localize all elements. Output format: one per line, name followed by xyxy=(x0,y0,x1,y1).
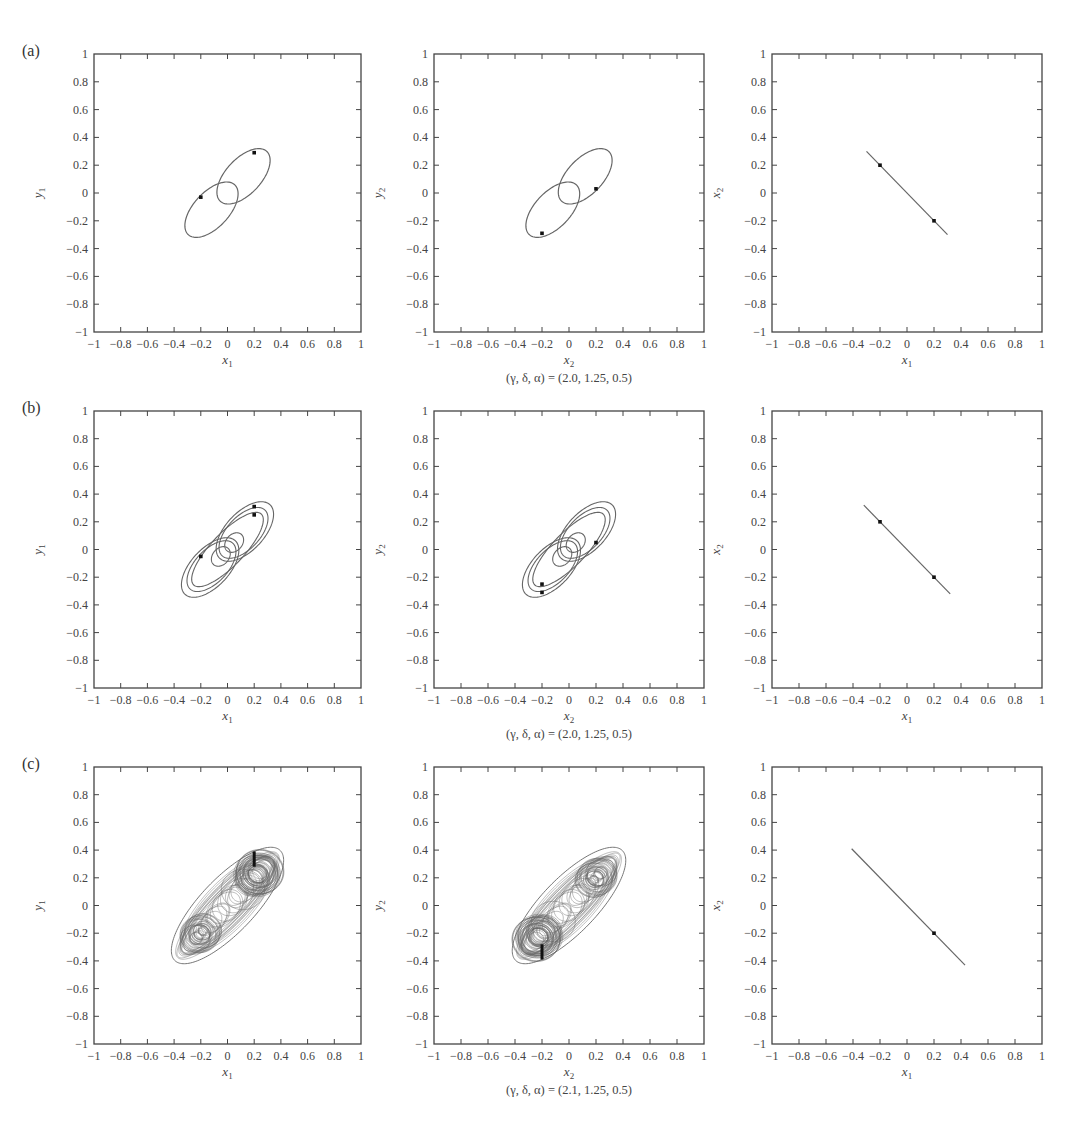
y-tick-label: −0.6 xyxy=(744,626,766,640)
y-tick-label: 0.2 xyxy=(751,515,766,529)
axes-frame xyxy=(94,54,361,332)
plot-area xyxy=(864,505,950,594)
x-tick-label: −0.4 xyxy=(163,1049,185,1063)
x-tick-label: −0.8 xyxy=(788,337,810,351)
x-tick-label: −0.8 xyxy=(110,693,132,707)
plot-area xyxy=(512,847,626,963)
panel-label: (a) xyxy=(22,42,40,60)
y-tick-label: −0.4 xyxy=(406,242,428,256)
x-tick-label: −0.8 xyxy=(450,337,472,351)
x-tick-label: −0.8 xyxy=(110,1049,132,1063)
x-tick-label: −0.6 xyxy=(477,693,499,707)
sync-line xyxy=(852,849,965,965)
y-tick-label: 0.2 xyxy=(751,871,766,885)
subplot-a-2: −1−1−0.8−0.8−0.6−0.6−0.4−0.4−0.2−0.2000.… xyxy=(370,47,707,385)
y-tick-label: 0 xyxy=(82,543,88,557)
y-axis-label: y2 xyxy=(370,188,387,200)
x-tick-label: 0.6 xyxy=(300,693,315,707)
plot-area xyxy=(522,502,615,598)
x-tick-label: 0.8 xyxy=(1008,1049,1023,1063)
y-tick-label: 0.8 xyxy=(751,432,766,446)
x-tick-label: 0.6 xyxy=(300,337,315,351)
panel-label: (b) xyxy=(22,399,41,417)
y-tick-label: −0.8 xyxy=(406,297,428,311)
x-tick-label: 0.6 xyxy=(981,1049,996,1063)
y-tick-label: −0.6 xyxy=(406,626,428,640)
x-axis-label: x1 xyxy=(221,708,232,725)
x-tick-label: 0.6 xyxy=(643,693,658,707)
orbit-lobe-lower xyxy=(526,182,580,237)
x-tick-label: −1 xyxy=(88,337,101,351)
x-tick-label: −0.8 xyxy=(110,337,132,351)
x-tick-label: −0.2 xyxy=(869,337,891,351)
x-tick-label: −0.4 xyxy=(504,1049,526,1063)
subplot-b-1: −1−1−0.8−0.8−0.6−0.6−0.4−0.4−0.2−0.2000.… xyxy=(22,399,364,725)
y-tick-label: 1 xyxy=(760,404,766,418)
orbit-lobe-lower xyxy=(185,182,238,237)
x-tick-label: 0.4 xyxy=(616,1049,631,1063)
y-tick-label: −1 xyxy=(753,325,766,339)
y-tick-label: 1 xyxy=(82,47,88,61)
x-tick-label: 0.6 xyxy=(643,1049,658,1063)
y-tick-label: 0 xyxy=(422,899,428,913)
x-tick-label: −0.4 xyxy=(504,693,526,707)
y-tick-label: 0.4 xyxy=(413,130,428,144)
y-tick-label: 0.6 xyxy=(413,815,428,829)
orbit-lobe-upper xyxy=(217,149,270,204)
y-tick-label: 1 xyxy=(82,404,88,418)
y-tick-label: 0.4 xyxy=(73,487,88,501)
orbit-loop xyxy=(553,547,572,567)
x-axis-label: x2 xyxy=(563,1064,574,1081)
x-tick-label: 0 xyxy=(904,337,910,351)
x-tick-label: 0.6 xyxy=(981,693,996,707)
y-axis-label: x2 xyxy=(708,544,725,555)
y-tick-label: −0.4 xyxy=(66,242,88,256)
y-tick-label: 1 xyxy=(760,47,766,61)
axes-frame xyxy=(434,54,704,332)
x-tick-label: −0.2 xyxy=(190,1049,212,1063)
orbit-lobe-upper xyxy=(558,149,612,204)
y-tick-label: −0.6 xyxy=(406,982,428,996)
poincare-point-marker xyxy=(878,520,882,524)
x-tick-label: −1 xyxy=(766,337,779,351)
x-tick-label: 0.8 xyxy=(327,693,342,707)
subplot-a-3: −1−1−0.8−0.8−0.6−0.6−0.4−0.4−0.2−0.2000.… xyxy=(708,47,1045,369)
y-tick-label: −0.2 xyxy=(406,570,428,584)
x-tick-label: 1 xyxy=(701,1049,707,1063)
plot-area xyxy=(171,847,284,963)
y-tick-label: −1 xyxy=(415,1037,428,1051)
y-tick-label: 0.2 xyxy=(73,515,88,529)
y-axis-label: y2 xyxy=(370,900,387,912)
y-tick-label: 1 xyxy=(422,404,428,418)
y-tick-label: −0.4 xyxy=(744,242,766,256)
poincare-point-marker xyxy=(540,582,544,586)
y-tick-label: −0.4 xyxy=(66,598,88,612)
x-tick-label: −1 xyxy=(88,693,101,707)
x-tick-label: −1 xyxy=(766,1049,779,1063)
x-tick-label: −0.6 xyxy=(137,693,159,707)
x-tick-label: 0.4 xyxy=(273,693,288,707)
x-tick-label: 0.2 xyxy=(927,693,942,707)
orbit-loop xyxy=(533,512,605,586)
x-tick-label: 0.8 xyxy=(327,337,342,351)
x-tick-label: 0 xyxy=(225,1049,231,1063)
x-tick-label: −1 xyxy=(428,337,441,351)
sync-line xyxy=(864,505,950,594)
poincare-point-marker xyxy=(252,505,256,509)
figure-canvas: −1−1−0.8−0.8−0.6−0.6−0.4−0.4−0.2−0.2000.… xyxy=(0,0,1077,1136)
x-tick-label: −0.8 xyxy=(450,1049,472,1063)
y-tick-label: −1 xyxy=(75,1037,88,1051)
x-tick-label: 0 xyxy=(904,1049,910,1063)
x-tick-label: 1 xyxy=(358,693,364,707)
poincare-point-marker xyxy=(594,541,598,545)
y-tick-label: −0.6 xyxy=(66,269,88,283)
y-tick-label: −0.6 xyxy=(744,982,766,996)
x-tick-label: 1 xyxy=(358,1049,364,1063)
x-axis-label: x1 xyxy=(901,1064,912,1081)
x-axis-label: x2 xyxy=(563,352,574,369)
x-tick-label: 0.4 xyxy=(273,1049,288,1063)
x-axis-label: x2 xyxy=(563,708,574,725)
x-tick-label: −0.6 xyxy=(477,1049,499,1063)
x-tick-label: −0.6 xyxy=(815,1049,837,1063)
y-tick-label: 0 xyxy=(760,543,766,557)
